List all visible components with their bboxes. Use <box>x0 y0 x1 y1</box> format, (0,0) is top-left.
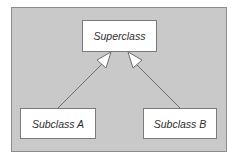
subclass-b-label: Subclass B <box>154 118 207 130</box>
subclass-b-node: Subclass B <box>143 108 217 139</box>
superclass-label: Superclass <box>94 30 146 42</box>
subclass-a-node: Subclass A <box>20 108 96 139</box>
superclass-node: Superclass <box>82 20 157 52</box>
subclass-a-label: Subclass A <box>32 118 84 130</box>
